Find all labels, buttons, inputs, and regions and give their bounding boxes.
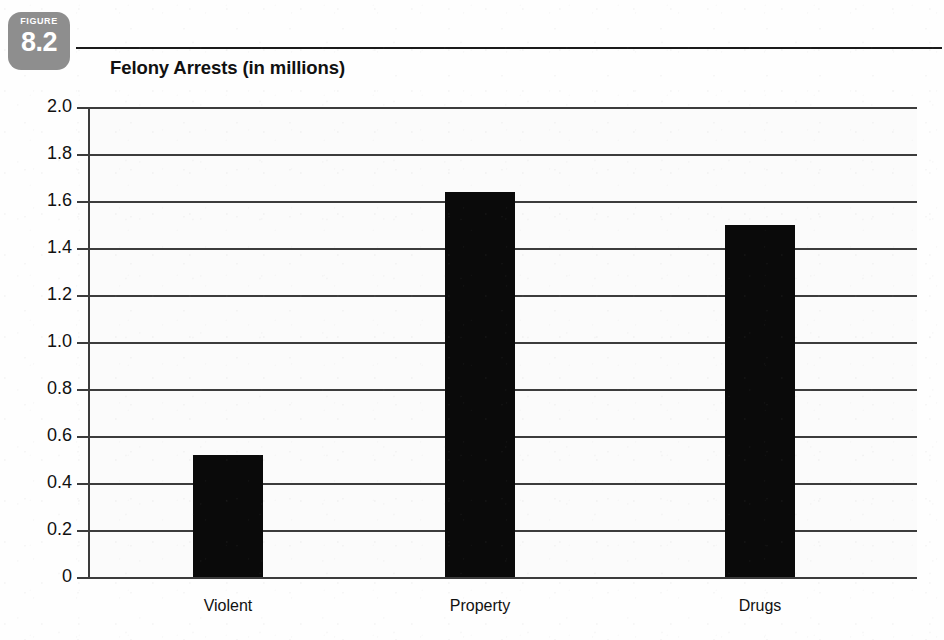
- figure-badge-number: 8.2: [21, 27, 57, 57]
- y-tick-label: 1.4: [2, 237, 72, 258]
- figure-root: FIGURE 8.2 Felony Arrests (in millions) …: [0, 0, 944, 640]
- y-tick-label: 1.8: [2, 143, 72, 164]
- y-tick-mark: [77, 530, 89, 532]
- x-category-label-property: Property: [400, 597, 560, 615]
- y-tick-mark: [77, 436, 89, 438]
- y-tick-mark: [77, 389, 89, 391]
- x-category-label-drugs: Drugs: [680, 597, 840, 615]
- y-tick-mark: [77, 295, 89, 297]
- figure-badge: FIGURE 8.2: [8, 12, 70, 70]
- gridline: [88, 107, 917, 109]
- y-tick-mark: [77, 483, 89, 485]
- y-tick-label: 0.8: [2, 378, 72, 399]
- y-tick-label: 0.4: [2, 472, 72, 493]
- y-tick-mark: [77, 201, 89, 203]
- chart-title: Felony Arrests (in millions): [110, 57, 345, 79]
- y-tick-mark: [77, 107, 89, 109]
- y-tick-mark: [77, 248, 89, 250]
- y-tick-label: 2.0: [2, 96, 72, 117]
- y-tick-label: 0: [2, 566, 72, 587]
- y-tick-label: 1.0: [2, 331, 72, 352]
- x-category-label-violent: Violent: [148, 597, 308, 615]
- bar-drugs: [725, 225, 795, 578]
- y-tick-mark: [77, 342, 89, 344]
- y-tick-label: 1.6: [2, 190, 72, 211]
- y-tick-label: 1.2: [2, 284, 72, 305]
- gridline: [88, 577, 917, 579]
- y-tick-mark: [77, 577, 89, 579]
- bar-property: [445, 192, 515, 577]
- y-tick-label: 0.6: [2, 425, 72, 446]
- y-tick-label: 0.2: [2, 519, 72, 540]
- y-tick-mark: [77, 154, 89, 156]
- bar-violent: [193, 455, 263, 577]
- gridline: [88, 154, 917, 156]
- figure-badge-kicker: FIGURE: [20, 16, 58, 27]
- header-rule: [76, 47, 942, 49]
